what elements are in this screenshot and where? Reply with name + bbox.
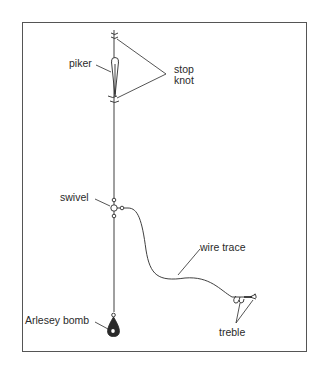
arlesey-bomb-icon (108, 313, 120, 336)
arlesey-bomb-pointer (95, 322, 108, 329)
swivel-pointer (95, 199, 110, 206)
treble-pointers (236, 300, 253, 323)
stop-knot-lower-icon (108, 96, 119, 103)
swivel-icon (111, 198, 124, 218)
label-arlesey-bomb: Arlesey bomb (25, 314, 89, 326)
label-wire-trace: wire trace (199, 241, 246, 253)
piker-float-icon (112, 58, 119, 97)
stop-knot-upper-icon (111, 33, 118, 39)
label-knot: knot (174, 74, 194, 86)
treble-hook-icon (234, 294, 257, 303)
piker-pointer (96, 65, 111, 72)
stop-knot-pointers (117, 39, 166, 98)
label-piker: piker (69, 57, 92, 69)
label-swivel: swivel (60, 191, 89, 203)
wire-trace-pointer (178, 249, 200, 275)
label-treble: treble (219, 326, 245, 338)
diagram-frame (23, 23, 307, 352)
rig-diagram: stop knot piker swivel wire trace treble… (0, 0, 325, 369)
